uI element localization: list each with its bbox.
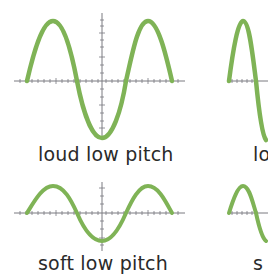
panel-loud-high-pitch-partial	[228, 21, 268, 140]
waveform-diagram	[0, 0, 268, 276]
label-soft-low-pitch: soft low pitch	[38, 252, 168, 274]
label-soft-high-pitch-partial: s	[253, 252, 263, 274]
label-loud-low-pitch: loud low pitch	[38, 143, 174, 165]
label-loud-high-pitch-partial: lo	[253, 143, 268, 165]
panel-soft-high-pitch-partial	[228, 186, 268, 241]
panel-soft-low-pitch	[14, 182, 185, 251]
waveform-loud-low	[27, 21, 172, 138]
panel-loud-low-pitch	[14, 13, 185, 140]
